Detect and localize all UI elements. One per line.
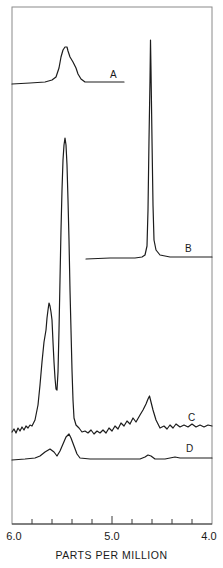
trace-d [12,434,212,460]
trace-label-c: C [188,412,195,423]
plot-frame [12,7,212,524]
trace-b [86,40,212,259]
trace-a [12,47,124,84]
trace-label-a: A [110,69,117,80]
trace-label-b: B [185,243,192,254]
trace-label-d: D [186,443,193,454]
nmr-chart [0,0,223,568]
trace-c [12,138,212,434]
tick-label-4: 4.0 [201,530,216,542]
tick-label-6: 6.0 [6,530,21,542]
tick-label-5: 5.0 [104,530,119,542]
x-ticks [32,516,192,524]
x-axis-title: PARTS PER MILLION [0,549,223,561]
